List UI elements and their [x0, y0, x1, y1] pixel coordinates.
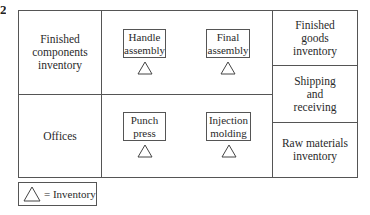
label-line: press: [133, 127, 156, 140]
area-raw-materials-inventory: Raw materials inventory: [273, 123, 357, 177]
label-line: inventory: [282, 150, 348, 163]
inventory-triangle-icon: [137, 61, 153, 75]
station-final-assembly: Final assembly: [206, 29, 250, 58]
label-line: inventory: [293, 45, 337, 58]
label-line: Final: [217, 31, 240, 44]
station-box: Handle assembly: [123, 29, 166, 58]
inventory-triangle-icon: [137, 144, 153, 158]
station-box: Punch press: [123, 112, 166, 141]
station-box: Final assembly: [206, 29, 250, 58]
label-line: goods: [293, 32, 337, 45]
station-punch-press: Punch press: [123, 112, 166, 141]
area-shipping-receiving: Shipping and receiving: [273, 66, 357, 122]
figure-number-fragment: 2: [0, 2, 6, 18]
area-offices: Offices: [19, 95, 101, 177]
station-injection-molding: Injection molding: [206, 112, 251, 141]
legend-label: = Inventory: [44, 188, 96, 200]
label-line: Shipping: [294, 75, 337, 88]
inventory-triangle-icon: [221, 144, 237, 158]
label-line: assembly: [124, 44, 165, 57]
station-box: Injection molding: [206, 112, 251, 141]
area-finished-components-inventory: Finished components inventory: [19, 11, 101, 94]
label-line: molding: [210, 127, 247, 140]
label-line: Raw materials: [282, 137, 348, 150]
legend: = Inventory: [18, 182, 97, 206]
label-line: inventory: [32, 59, 88, 72]
area-finished-goods-inventory: Finished goods inventory: [273, 11, 357, 65]
label-line: Handle: [129, 31, 161, 44]
inventory-triangle-icon: [23, 186, 41, 202]
label-line: and: [294, 88, 337, 101]
station-handle-assembly: Handle assembly: [123, 29, 166, 58]
label-line: Finished: [32, 33, 88, 46]
label-line: components: [32, 46, 88, 59]
inventory-triangle-icon: [220, 61, 236, 75]
label-line: Punch: [131, 114, 159, 127]
label-line: assembly: [208, 44, 249, 57]
label-line: Finished: [293, 19, 337, 32]
label-line: Injection: [209, 114, 248, 127]
label-line: receiving: [294, 101, 337, 114]
label: Offices: [43, 130, 77, 143]
